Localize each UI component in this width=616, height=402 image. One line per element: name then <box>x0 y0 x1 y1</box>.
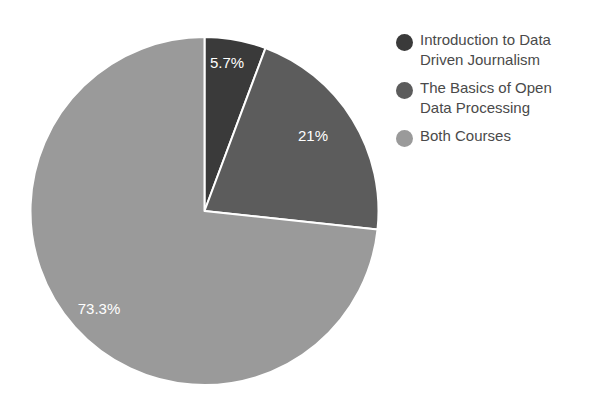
chart-legend: Introduction to Data Driven JournalismTh… <box>396 30 606 155</box>
legend-swatch-icon <box>396 82 413 99</box>
pie-slice-value-label: 73.3% <box>78 300 121 317</box>
legend-item-label: The Basics of Open Data Processing <box>420 78 552 118</box>
legend-swatch-icon <box>396 130 413 147</box>
legend-item[interactable]: The Basics of Open Data Processing <box>396 78 606 118</box>
pie-chart: 5.7%21%73.3% Introduction to Data Driven… <box>0 0 616 402</box>
legend-item-label: Both Courses <box>420 126 511 146</box>
pie-slice-value-label: 5.7% <box>210 54 244 71</box>
legend-item[interactable]: Both Courses <box>396 126 606 147</box>
pie-slices-group <box>31 37 379 385</box>
pie-slice-value-label: 21% <box>298 127 328 144</box>
legend-item-label: Introduction to Data Driven Journalism <box>420 30 551 70</box>
legend-swatch-icon <box>396 34 413 51</box>
legend-item[interactable]: Introduction to Data Driven Journalism <box>396 30 606 70</box>
